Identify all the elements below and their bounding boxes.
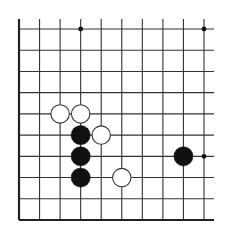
star-point-icon (78, 27, 83, 32)
black-stone-icon (174, 147, 193, 166)
white-stone-icon (92, 126, 110, 144)
star-point-icon (202, 27, 207, 32)
go-board-diagram (0, 0, 229, 236)
go-board (0, 0, 229, 236)
white-stone-icon (113, 168, 131, 186)
star-point-icon (202, 154, 207, 159)
black-stone-icon (71, 126, 90, 145)
black-stone-icon (71, 147, 90, 166)
board-grid (19, 19, 214, 220)
white-stone-icon (51, 105, 69, 123)
white-stone-icon (71, 105, 89, 123)
black-stone-icon (71, 168, 90, 187)
